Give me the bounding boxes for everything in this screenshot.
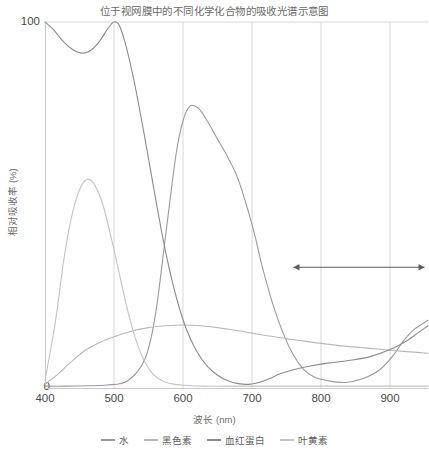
x-tick-label: 600 (163, 392, 203, 404)
chart-legend: 水黑色素血红蛋白叶黄素 (0, 433, 429, 447)
y-tick-label-100: 100 (6, 15, 40, 27)
plot-area (45, 22, 428, 388)
legend-item[interactable]: 血红蛋白 (207, 433, 265, 447)
x-tick-label: 400 (25, 392, 65, 404)
legend-label: 水 (119, 433, 129, 447)
legend-swatch-icon (101, 439, 115, 441)
legend-swatch-icon (144, 439, 158, 441)
legend-item[interactable]: 水 (101, 433, 129, 447)
x-axis-line (45, 388, 428, 389)
legend-swatch-icon (280, 439, 294, 441)
series-line (45, 179, 428, 386)
series-lines (45, 22, 428, 386)
legend-swatch-icon (207, 439, 221, 441)
legend-item[interactable]: 叶黄素 (280, 433, 328, 447)
x-tick-label: 900 (370, 392, 410, 404)
x-tick-label: 800 (301, 392, 341, 404)
legend-label: 叶黄素 (298, 433, 328, 447)
chart-container: 位于视网膜中的不同化学化合物的吸收光谱示意图 相对吸收率 (%) 100 0 4… (0, 0, 429, 460)
chart-title: 位于视网膜中的不同化学化合物的吸收光谱示意图 (0, 3, 429, 18)
series-line (45, 105, 428, 386)
y-axis-title: 相对吸收率 (%) (5, 152, 19, 252)
legend-label: 血红蛋白 (225, 433, 265, 447)
legend-label: 黑色素 (162, 433, 192, 447)
x-tick-label: 500 (94, 392, 134, 404)
x-axis-title: 波长 (nm) (0, 412, 429, 426)
plot-svg (45, 22, 428, 388)
annotation-arrow (293, 264, 424, 270)
x-tick-label: 700 (232, 392, 272, 404)
legend-item[interactable]: 黑色素 (144, 433, 192, 447)
